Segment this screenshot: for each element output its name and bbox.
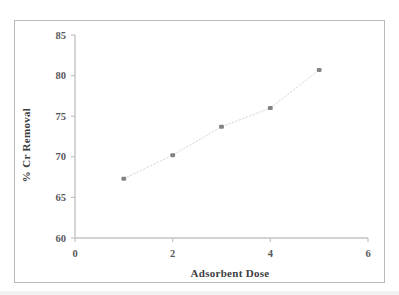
y-axis-tick-label: 70 [56,151,67,162]
data-point [219,125,224,129]
y-axis-title: % Cr Removal [20,108,32,182]
data-point-marker [317,68,322,72]
x-axis-tick-label: 0 [72,248,77,259]
data-trend-line [124,70,319,179]
y-axis-tick-label: 60 [56,233,67,244]
ticks-layer [71,35,368,242]
scan-edge [0,291,399,295]
data-point [121,177,126,181]
data-point [170,153,175,157]
chart-plot-area: 6065707580850246 Adsorbent Dose % Cr Rem… [0,0,399,295]
chart-figure: 6065707580850246 Adsorbent Dose % Cr Rem… [0,0,399,295]
x-axis-tick-label: 4 [268,248,274,259]
data-point-marker [268,106,273,110]
y-axis-tick-label: 85 [56,30,67,41]
x-axis-tick-label: 6 [365,248,370,259]
x-axis-tick-label: 2 [170,248,175,259]
data-point-marker [219,125,224,129]
data-point [317,68,322,72]
y-axis-tick-label: 80 [56,70,67,81]
data-series-layer [121,68,321,181]
y-axis-tick-label: 75 [56,111,67,122]
data-point [268,106,273,110]
axes-layer [75,35,368,238]
axis-labels-layer: 6065707580850246 [56,30,371,260]
y-axis-tick-label: 65 [56,192,67,203]
x-axis-title: Adsorbent Dose [190,267,269,279]
data-point-marker [121,177,126,181]
data-point-marker [170,153,175,157]
